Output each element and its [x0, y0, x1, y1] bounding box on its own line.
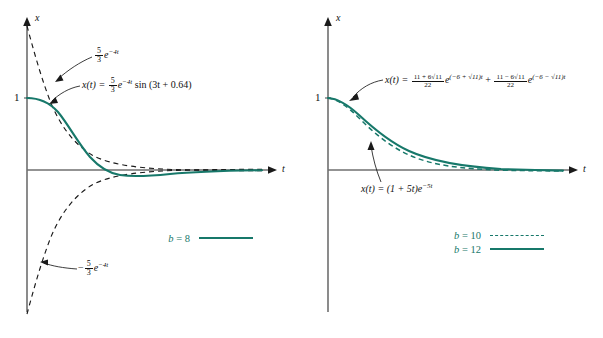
legend-label-b12: b = 12: [441, 244, 481, 255]
y-tick-label-one: 1: [315, 91, 321, 103]
leader-line-overdamped: [353, 80, 383, 97]
t-axis-arrowhead: [268, 166, 277, 174]
envelope-lower-exponent: −4t: [98, 261, 108, 269]
solution-curve-b10: [328, 98, 563, 171]
overdamped-term2-exponent: (−6 − √11)t: [532, 73, 565, 81]
envelope-upper-label: 5 3 e−4t: [94, 47, 119, 64]
plot-area-left: [0, 0, 301, 338]
critical-exponent: −5t: [422, 182, 432, 190]
legend-row-b8: b = 8: [150, 231, 253, 245]
chart-panel-right: x t 1 x(t) = 11 + 6√11 22 e(−6 + √11)t +…: [301, 0, 602, 338]
overdamped-lhs: x(t) =: [385, 74, 408, 85]
envelope-lower-fraction: 5 3: [85, 260, 93, 277]
legend-swatch-b12-solid: [490, 248, 544, 250]
leader-arrow-solution: [49, 97, 58, 104]
solution-curve-b12: [328, 98, 563, 171]
envelope-upper-fraction: 5 3: [95, 47, 103, 64]
solution-denominator: 3: [109, 86, 117, 94]
leader-line-critical: [371, 146, 381, 182]
leader-line-envelope-upper: [58, 57, 92, 79]
overdamped-term2-denominator: 22: [494, 82, 526, 89]
plot-area-right: [301, 0, 602, 338]
overdamped-term2-fraction: 11 − 6√11 22: [494, 74, 526, 89]
solution-curve-b8: [27, 98, 262, 176]
envelope-lower-sign: −: [78, 262, 84, 273]
legend-left: b = 8: [150, 231, 253, 245]
solution-exponent: −4t: [122, 78, 132, 86]
t-axis-arrowhead: [569, 166, 578, 174]
leader-arrow-envelope-lower: [40, 260, 48, 266]
overdamped-term1-denominator: 22: [412, 82, 444, 89]
envelope-lower-denominator: 3: [85, 269, 93, 277]
leader-arrow-critical: [368, 141, 375, 150]
damped-oscillation-figure: x t 1 5 3 e−4t x(t) = 5 3 e−4t sin (3t +…: [0, 0, 603, 338]
overdamped-term1-fraction: 11 + 6√11 22: [412, 74, 444, 89]
solution-lhs: x(t) =: [82, 79, 105, 90]
critical-lhs: x(t) = (1 + 5t): [361, 183, 418, 194]
y-tick-label-one: 1: [14, 91, 20, 103]
legend-right: b = 10 b = 12: [441, 228, 544, 256]
legend-label-b10: b = 10: [441, 230, 481, 241]
legend-label-b8: b = 8: [150, 233, 190, 244]
solution-trig-term: sin (3t + 0.64): [135, 79, 192, 90]
legend-swatch-b8-solid: [199, 237, 253, 239]
overdamped-term1-exponent: (−6 + √11)t: [449, 73, 482, 81]
chart-panel-left: x t 1 5 3 e−4t x(t) = 5 3 e−4t sin (3t +…: [0, 0, 301, 338]
x-axis-arrowhead: [23, 17, 31, 26]
overdamped-solution-label: x(t) = 11 + 6√11 22 e(−6 + √11)t + 11 − …: [385, 74, 566, 89]
solution-label: x(t) = 5 3 e−4t sin (3t + 0.64): [82, 77, 192, 94]
envelope-upper-exponent: −4t: [108, 48, 118, 56]
critically-damped-solution-label: x(t) = (1 + 5t)e−5t: [361, 184, 432, 194]
x-axis-label: t: [583, 163, 586, 174]
y-axis-label: x: [35, 12, 39, 23]
y-axis-label: x: [336, 12, 340, 23]
overdamped-plus-sign: +: [485, 74, 491, 85]
legend-swatch-b10-dashed: [490, 235, 544, 236]
envelope-lower-label: − 5 3 e−4t: [78, 260, 108, 277]
x-axis-arrowhead: [324, 17, 332, 26]
solution-fraction: 5 3: [109, 77, 117, 94]
leader-arrow-overdamped: [349, 93, 359, 101]
envelope-upper-curve: [27, 26, 262, 171]
legend-row-b12: b = 12: [441, 242, 544, 256]
leader-line-envelope-lower: [44, 263, 77, 269]
x-axis-label: t: [282, 163, 285, 174]
legend-row-b10: b = 10: [441, 228, 544, 242]
envelope-upper-denominator: 3: [95, 56, 103, 64]
